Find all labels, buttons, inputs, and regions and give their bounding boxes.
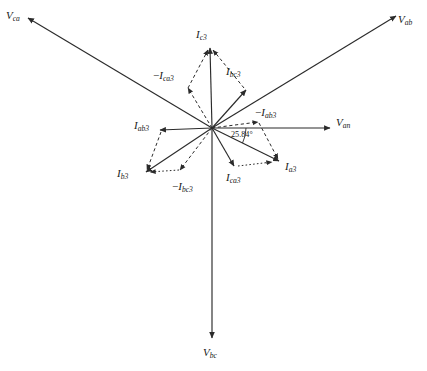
negated-current-i-ab3 — [212, 122, 258, 128]
phase-current-i-bc3 — [212, 90, 246, 128]
voltage-label-v-ab: Vab — [398, 14, 412, 25]
line-current-label-i-a3: Ia3 — [285, 161, 296, 172]
seg-ica3-to-ia3 — [238, 162, 272, 166]
voltage-label-v-bc: Vbc — [203, 347, 217, 358]
line-current-label-i-b3: Ib3 — [117, 168, 128, 179]
line-current-i-b3 — [146, 128, 212, 172]
negated-current-label-i-ab3: −Iab3 — [255, 107, 276, 118]
voltage-label-v-ca: Vca — [6, 10, 20, 21]
phasor-diagram: VcaVabVanVbcIc3Ib3Ia3Iab3Ibc3Ica3−Ica3−I… — [0, 0, 427, 371]
seg-ica3-to-ic3 — [188, 50, 208, 88]
line-current-i-c3 — [210, 48, 212, 128]
phase-current-i-ab3 — [160, 128, 212, 130]
angle-label: 25.84° — [231, 130, 253, 139]
voltage-v-ca — [28, 18, 212, 128]
negated-current-i-ca3 — [188, 88, 212, 128]
voltage-phasor-group — [28, 16, 396, 338]
phase-current-label-i-ab3: Iab3 — [134, 120, 149, 131]
negated-current-i-bc3 — [180, 128, 212, 170]
negated-current-label-i-ca3: −Ica3 — [153, 70, 174, 81]
phase-current-label-i-ca3: Ica3 — [226, 172, 241, 183]
negated-current-label-i-bc3: −Ibc3 — [172, 181, 193, 192]
line-current-label-i-c3: Ic3 — [196, 29, 207, 40]
seg-ibc3neg-to-ib3 — [150, 170, 179, 172]
seg-iab3-to-ib3 — [147, 132, 161, 170]
phase-current-label-i-bc3: Ibc3 — [226, 66, 241, 77]
voltage-label-v-an: Van — [336, 117, 350, 128]
phasor-svg-canvas — [0, 0, 427, 371]
